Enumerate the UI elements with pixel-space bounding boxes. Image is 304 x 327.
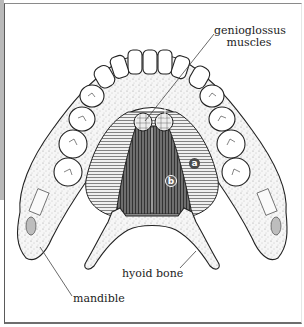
marker-a: a <box>189 158 200 169</box>
hyoid-leader <box>180 251 196 268</box>
label-hyoid-bone: hyoid bone <box>122 268 183 280</box>
figure-canvas: genioglossus muscles hyoid bone mandible… <box>0 0 304 327</box>
label-mandible: mandible <box>73 293 125 305</box>
marker-b: b <box>165 175 177 187</box>
label-genioglossus-line2: muscles <box>214 37 284 49</box>
mandible-leader <box>40 247 72 296</box>
hyoid-bone <box>85 208 220 269</box>
label-genioglossus-muscles: genioglossus muscles <box>214 25 284 49</box>
